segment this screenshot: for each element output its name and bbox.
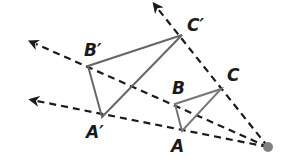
label-C: C: [227, 67, 239, 84]
label-B: B: [172, 80, 185, 97]
ray-through-A: [37, 101, 268, 147]
image-triangle: [88, 35, 182, 117]
label-B-prime: B′: [84, 42, 101, 59]
label-A-prime: A′: [86, 124, 104, 141]
center-of-dilation-point: [263, 142, 273, 152]
label-A: A: [171, 138, 184, 155]
ray-through-B: [36, 44, 268, 147]
dilation-diagram: [0, 0, 296, 164]
label-C-prime: C′: [187, 17, 204, 34]
